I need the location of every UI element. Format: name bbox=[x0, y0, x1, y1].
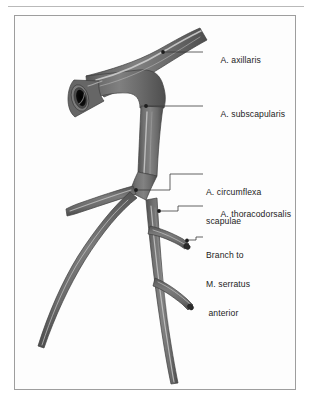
label-a-thoracodorsalis: A. thoracodorsalis bbox=[206, 200, 291, 229]
label-branch-serratus-line-3: anterior bbox=[206, 309, 250, 319]
label-a-circumflexa-scapulae-line-1: A. circumflexa bbox=[206, 188, 261, 198]
label-branch-serratus-line-1: Branch to bbox=[206, 251, 250, 261]
label-branch-serratus-line-2: M. serratus bbox=[206, 280, 250, 290]
label-a-subscapularis-line-1: A. subscapularis bbox=[220, 109, 285, 119]
label-a-thoracodorsalis-line-1: A. thoracodorsalis bbox=[220, 209, 291, 219]
label-a-axillaris-line-1: A. axillaris bbox=[220, 55, 260, 65]
label-branch-to-m-serratus-anterior: Branch to M. serratus anterior bbox=[206, 231, 250, 339]
figure-page: A. axillaris A. subscapularis A. circumf… bbox=[0, 0, 312, 405]
label-a-axillaris: A. axillaris bbox=[206, 46, 261, 75]
label-a-subscapularis: A. subscapularis bbox=[206, 100, 285, 129]
label-layer: A. axillaris A. subscapularis A. circumf… bbox=[0, 0, 312, 405]
